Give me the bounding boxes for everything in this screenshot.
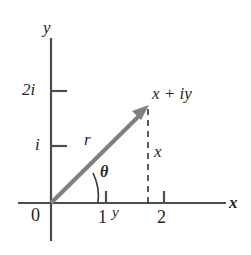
real-part-label: x: [154, 143, 162, 160]
point-label: x + iy: [152, 85, 192, 102]
tick-label-1: 1: [98, 208, 107, 226]
theta-arc: [93, 173, 98, 203]
x-axis-label: x: [229, 194, 238, 211]
y-axis-label: y: [43, 19, 51, 36]
tick-label-2i: 2i: [22, 81, 35, 98]
imaginary-part-label: y: [112, 205, 119, 220]
tick-label-2: 2: [157, 208, 166, 226]
origin-label: 0: [31, 206, 40, 224]
radius-label: r: [84, 131, 91, 148]
complex-plane-figure: y x 2i i 0 1 2 y r θ x + iy x: [0, 0, 251, 255]
tick-label-i: i: [35, 136, 40, 153]
vector-shaft: [51, 114, 141, 203]
angle-label: θ: [100, 164, 108, 180]
